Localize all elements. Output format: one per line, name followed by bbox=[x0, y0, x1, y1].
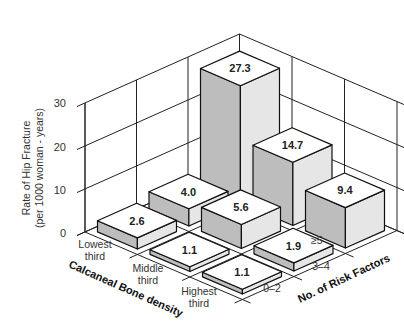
y-tick-20: 20 bbox=[54, 141, 66, 153]
bar-value-label: 27.3 bbox=[229, 62, 250, 74]
bar-value-label: 4.0 bbox=[181, 186, 196, 198]
chart-canvas: 27.314.79.44.05.61.92.61.11.1 Rate of Hi… bbox=[0, 0, 404, 330]
z-cat-0-2: 0–2 bbox=[263, 282, 281, 294]
bar-value-label: 9.4 bbox=[337, 184, 353, 196]
hip-fracture-3d-bar-chart: 27.314.79.44.05.61.92.61.11.1 Rate of Hi… bbox=[0, 0, 404, 330]
bar-value-label: 14.7 bbox=[282, 139, 303, 151]
x-cat-highest-line-2: third bbox=[189, 297, 210, 309]
chart-bars: 27.314.79.44.05.61.92.61.11.1 bbox=[98, 51, 385, 294]
x-cat-lowest-line-1: Lowest bbox=[78, 238, 111, 250]
y-tick-30: 30 bbox=[54, 97, 66, 109]
y-tick-10: 10 bbox=[54, 184, 66, 196]
y-axis-label-line-1: Rate of Hip Fracture bbox=[20, 121, 32, 216]
x-cat-highest-line-1: Highest bbox=[181, 285, 217, 297]
y-tick-0: 0 bbox=[60, 227, 66, 239]
bar-value-label: 1.9 bbox=[286, 240, 301, 252]
bar-value-label: 1.1 bbox=[182, 244, 197, 256]
x-cat-lowest-line-2: third bbox=[85, 250, 106, 262]
x-cat-middle-line-1: Middle bbox=[133, 262, 164, 274]
bar-value-label: 2.6 bbox=[129, 215, 144, 227]
x-cat-middle-line-2: third bbox=[138, 274, 159, 286]
z-cat-5-plus-label: ≥5 bbox=[311, 234, 323, 246]
y-axis-label-line-2: (per 1000 woman - years) bbox=[33, 108, 45, 228]
z-cat-3-4: 3–4 bbox=[312, 260, 330, 272]
bar-value-label: 5.6 bbox=[233, 201, 248, 213]
bar-value-label: 1.1 bbox=[234, 266, 249, 278]
